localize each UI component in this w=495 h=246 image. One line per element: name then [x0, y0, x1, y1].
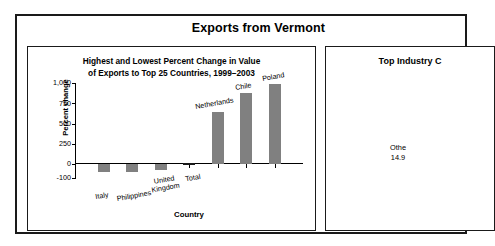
export-change-chart-panel: Highest and Lowest Percent Change in Val… [27, 46, 316, 231]
pie-slice-label-other: Othe 14.9 [368, 143, 428, 162]
pie-slice-label-name: Othe [368, 143, 428, 153]
bar-poland [269, 84, 281, 164]
y-axis-tick-mark [72, 178, 76, 179]
pie-slice-label-value: 14.9 [368, 153, 428, 163]
y-axis-tick-label: 750 [45, 100, 71, 107]
x-axis-tick-mark [218, 164, 219, 168]
bar-italy [98, 164, 110, 172]
industry-panel-title: Top Industry C [326, 56, 494, 66]
bar-chile [240, 93, 252, 164]
y-axis-tick-label: 500 [45, 120, 71, 127]
y-axis-tick-label: -100 [45, 174, 71, 181]
top-industry-panel: Top Industry C Othe 14.9 [325, 46, 495, 231]
page-frame: Exports from Vermont Highest and Lowest … [15, 14, 467, 234]
bar-united-kingdom [155, 164, 167, 170]
bar-value-label: Poland [261, 70, 285, 83]
y-axis-tick-label: 1,000 [45, 79, 71, 86]
y-axis-tick-label: 250 [45, 140, 71, 147]
y-axis-tick-label: 0 [45, 160, 71, 167]
y-axis-tick-labels: 1,0007505002500-100 [45, 47, 71, 230]
y-axis-tick-mark [72, 164, 76, 165]
y-axis-tick-mark [72, 83, 76, 84]
y-axis-tick-mark [72, 124, 76, 125]
bar-netherlands [212, 112, 224, 164]
y-axis-tick-mark [72, 144, 76, 145]
plot-area: NetherlandsChilePoland [75, 83, 303, 178]
x-axis-tick-mark [246, 164, 247, 168]
bar-value-label: Netherlands [194, 96, 234, 112]
x-axis-title: Country [75, 210, 303, 219]
banner: Exports from Vermont [17, 16, 465, 42]
bar-philippines [126, 164, 138, 172]
x-axis-tick-mark [275, 164, 276, 168]
bar-value-label: Chile [235, 80, 253, 92]
bar-total [183, 163, 195, 165]
y-axis-tick-mark [72, 103, 76, 104]
page-title: Exports from Vermont [192, 21, 325, 35]
chart-plot-wrapper: Percent change 1,0007505002500-100 Nethe… [28, 47, 315, 230]
